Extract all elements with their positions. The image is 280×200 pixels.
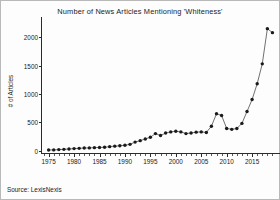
data-point-marker xyxy=(240,122,243,125)
x-tick-label: 1975 xyxy=(42,158,56,165)
data-point-marker xyxy=(194,130,197,133)
series-line xyxy=(49,29,273,150)
x-tick-mark-minor xyxy=(186,154,187,156)
data-point-marker xyxy=(108,145,111,148)
x-tick-mark-minor xyxy=(94,154,95,156)
data-point-marker xyxy=(235,127,238,130)
x-tick-mark xyxy=(176,154,177,157)
x-tick-mark-minor xyxy=(110,154,111,156)
x-tick-mark-minor xyxy=(247,154,248,156)
x-tick-mark xyxy=(49,154,50,157)
data-point-marker xyxy=(164,131,167,134)
data-point-marker xyxy=(52,148,55,151)
x-tick-mark-minor xyxy=(79,154,80,156)
data-point-marker xyxy=(205,131,208,134)
y-tick-label: 2000 xyxy=(24,34,38,41)
data-point-marker xyxy=(220,114,223,117)
x-tick-mark-minor xyxy=(155,154,156,156)
x-tick-mark-minor xyxy=(140,154,141,156)
x-tick-mark xyxy=(125,154,126,157)
x-tick-mark xyxy=(100,154,101,157)
data-point-marker xyxy=(189,131,192,134)
x-tick-mark xyxy=(227,154,228,157)
x-tick-label: 1980 xyxy=(67,158,81,165)
x-tick-mark-minor xyxy=(120,154,121,156)
x-tick-mark-minor xyxy=(105,154,106,156)
data-point-marker xyxy=(118,144,121,147)
data-point-marker xyxy=(67,147,70,150)
data-point-marker xyxy=(47,148,50,151)
data-point-marker xyxy=(149,136,152,139)
data-point-marker xyxy=(93,146,96,149)
source-note: Source: LexisNexis xyxy=(7,186,62,193)
x-tick-mark-minor xyxy=(171,154,172,156)
x-tick-mark-minor xyxy=(64,154,65,156)
x-tick-mark-minor xyxy=(115,154,116,156)
x-tick-label: 2015 xyxy=(245,158,259,165)
data-point-marker xyxy=(113,144,116,147)
x-tick-mark-minor xyxy=(237,154,238,156)
x-tick-label: 1985 xyxy=(92,158,106,165)
x-tick-mark xyxy=(150,154,151,157)
data-point-marker xyxy=(230,128,233,131)
x-tick-label: 2010 xyxy=(220,158,234,165)
data-point-marker xyxy=(174,130,177,133)
x-tick-mark xyxy=(252,154,253,157)
data-point-marker xyxy=(250,98,253,101)
x-tick-mark-minor xyxy=(166,154,167,156)
data-point-marker xyxy=(139,139,142,142)
x-tick-mark-minor xyxy=(191,154,192,156)
data-point-marker xyxy=(169,130,172,133)
x-tick-mark-minor xyxy=(196,154,197,156)
x-tick-mark-minor xyxy=(161,154,162,156)
data-point-marker xyxy=(225,127,228,130)
chart-figure: Number of News Articles Mentioning 'Whit… xyxy=(0,0,280,200)
x-tick-mark-minor xyxy=(44,154,45,156)
x-tick-label: 2000 xyxy=(169,158,183,165)
x-tick-mark-minor xyxy=(84,154,85,156)
x-tick-mark-minor xyxy=(59,154,60,156)
y-axis-label: # of Articles xyxy=(7,61,14,121)
y-tick-label: 1000 xyxy=(24,90,38,97)
data-point-marker xyxy=(261,62,264,65)
x-tick-mark-minor xyxy=(267,154,268,156)
data-point-marker xyxy=(184,132,187,135)
data-point-marker xyxy=(123,144,126,147)
x-tick-mark xyxy=(74,154,75,157)
x-tick-mark-minor xyxy=(181,154,182,156)
data-point-marker xyxy=(98,146,101,149)
data-point-marker xyxy=(154,132,157,135)
data-point-marker xyxy=(103,145,106,148)
x-tick-mark-minor xyxy=(89,154,90,156)
data-point-marker xyxy=(266,27,269,30)
x-tick-mark-minor xyxy=(272,154,273,156)
y-tick-label: 0 xyxy=(34,147,38,154)
data-point-marker xyxy=(57,148,60,151)
x-tick-mark-minor xyxy=(262,154,263,156)
data-point-marker xyxy=(72,147,75,150)
data-point-marker xyxy=(62,148,65,151)
data-point-marker xyxy=(144,137,147,140)
x-tick-mark-minor xyxy=(242,154,243,156)
plot-area: # of Articles 0500100015002000 197519801… xyxy=(41,23,275,154)
data-point-marker xyxy=(133,140,136,143)
data-point-marker xyxy=(256,82,259,85)
x-tick-mark-minor xyxy=(217,154,218,156)
data-point-marker xyxy=(159,134,162,137)
data-point-marker xyxy=(245,110,248,113)
x-tick-mark-minor xyxy=(135,154,136,156)
data-point-marker xyxy=(271,31,274,34)
data-point-marker xyxy=(83,146,86,149)
x-tick-mark-minor xyxy=(211,154,212,156)
data-point-marker xyxy=(88,146,91,149)
x-tick-mark-minor xyxy=(206,154,207,156)
y-tick-label: 1500 xyxy=(24,62,38,69)
chart-title: Number of News Articles Mentioning 'Whit… xyxy=(1,7,279,16)
data-point-marker xyxy=(128,143,131,146)
x-tick-mark-minor xyxy=(69,154,70,156)
data-point-marker xyxy=(215,112,218,115)
x-tick-label: 1990 xyxy=(118,158,132,165)
x-tick-mark-minor xyxy=(222,154,223,156)
data-point-marker xyxy=(210,125,213,128)
x-tick-mark-minor xyxy=(54,154,55,156)
